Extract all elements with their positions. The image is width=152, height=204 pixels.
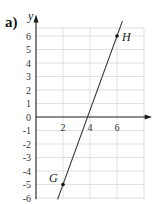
y-tick-label: -1 bbox=[23, 125, 31, 136]
x-tick-label: 4 bbox=[88, 122, 93, 133]
y-tick-label: -3 bbox=[23, 152, 31, 163]
y-tick-label: -2 bbox=[23, 139, 31, 150]
point-g bbox=[61, 183, 65, 187]
line-graph: xy2466543210-1-2-3-4-5-6GH bbox=[0, 0, 152, 204]
x-tick-label: 6 bbox=[115, 122, 120, 133]
y-axis-arrow-icon bbox=[34, 14, 39, 22]
y-tick-label: -5 bbox=[23, 179, 31, 190]
point-label-h: H bbox=[121, 30, 132, 44]
y-tick-label: 6 bbox=[26, 31, 31, 42]
y-tick-label: 1 bbox=[26, 98, 31, 109]
x-axis-arrow-icon bbox=[145, 115, 152, 120]
y-tick-label: -4 bbox=[23, 166, 31, 177]
y-tick-label: 5 bbox=[26, 44, 31, 55]
y-tick-label: 2 bbox=[26, 85, 31, 96]
y-tick-label: 3 bbox=[26, 71, 31, 82]
x-tick-label: 2 bbox=[61, 122, 66, 133]
y-tick-label: 0 bbox=[26, 112, 31, 123]
point-label-g: G bbox=[49, 171, 58, 185]
point-h bbox=[115, 34, 119, 38]
y-tick-label: -6 bbox=[23, 193, 31, 204]
y-tick-label: 4 bbox=[26, 58, 31, 69]
y-axis-label: y bbox=[27, 9, 34, 23]
